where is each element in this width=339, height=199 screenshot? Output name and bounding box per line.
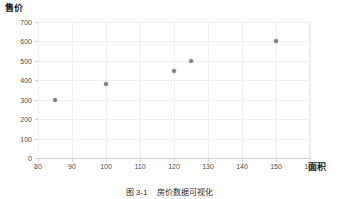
x-axis-tick-mark bbox=[208, 159, 209, 162]
gridline-vertical bbox=[310, 22, 311, 158]
x-axis-tick-mark bbox=[242, 159, 243, 162]
figure-caption-text: 房价数据可视化 bbox=[157, 188, 213, 197]
x-axis-tick-label: 110 bbox=[128, 163, 152, 170]
y-axis-tick-label: 600 bbox=[6, 38, 32, 45]
data-point bbox=[172, 69, 176, 73]
gridline-horizontal bbox=[38, 61, 310, 62]
x-axis-tick-label: 130 bbox=[196, 163, 220, 170]
plot-area bbox=[38, 22, 310, 158]
y-axis-tick-label: 100 bbox=[6, 136, 32, 143]
data-point bbox=[274, 39, 278, 43]
y-axis-tick-label: 200 bbox=[6, 116, 32, 123]
y-axis-tick-mark bbox=[35, 158, 38, 159]
y-axis-tick-mark bbox=[35, 100, 38, 101]
data-point bbox=[53, 98, 57, 102]
gridline-horizontal bbox=[38, 100, 310, 101]
x-axis-tick-mark bbox=[276, 159, 277, 162]
x-axis-tick-mark bbox=[106, 159, 107, 162]
x-axis-tick-mark bbox=[310, 159, 311, 162]
y-axis-tick-label: 300 bbox=[6, 97, 32, 104]
y-axis-tick-label: 500 bbox=[6, 58, 32, 65]
y-axis-tick-label: 400 bbox=[6, 77, 32, 84]
gridline-horizontal bbox=[38, 119, 310, 120]
x-axis-tick-label: 150 bbox=[264, 163, 288, 170]
x-axis-tick-label: 80 bbox=[26, 163, 50, 170]
x-axis-tick-mark bbox=[174, 159, 175, 162]
data-point bbox=[189, 59, 193, 63]
x-axis-tick-mark bbox=[140, 159, 141, 162]
x-axis-tick-label: 140 bbox=[230, 163, 254, 170]
x-axis-tick-label: 120 bbox=[162, 163, 186, 170]
figure-caption: 图 3-1房价数据可视化 bbox=[0, 186, 339, 197]
y-axis-tick-mark bbox=[35, 119, 38, 120]
data-point bbox=[104, 82, 108, 86]
figure-caption-number: 图 3-1 bbox=[126, 188, 148, 197]
figure-scatter-chart: 售价 面积 0100200300400500600700 80901001101… bbox=[0, 0, 339, 199]
x-axis-tick-label: 100 bbox=[94, 163, 118, 170]
gridline-horizontal bbox=[38, 139, 310, 140]
y-axis-tick-mark bbox=[35, 139, 38, 140]
y-axis-tick-label: 0 bbox=[6, 155, 32, 162]
y-axis-tick-mark bbox=[35, 41, 38, 42]
x-axis-tick-label: 160 bbox=[298, 163, 322, 170]
gridline-horizontal bbox=[38, 22, 310, 23]
y-axis-tick-label: 700 bbox=[6, 19, 32, 26]
gridline-horizontal bbox=[38, 41, 310, 42]
y-axis-title: 售价 bbox=[5, 1, 23, 14]
x-axis-tick-mark bbox=[72, 159, 73, 162]
y-axis-tick-mark bbox=[35, 61, 38, 62]
y-axis-tick-mark bbox=[35, 80, 38, 81]
x-axis-tick-mark bbox=[38, 159, 39, 162]
x-axis-tick-label: 90 bbox=[60, 163, 84, 170]
y-axis-tick-mark bbox=[35, 22, 38, 23]
gridline-horizontal bbox=[38, 80, 310, 81]
